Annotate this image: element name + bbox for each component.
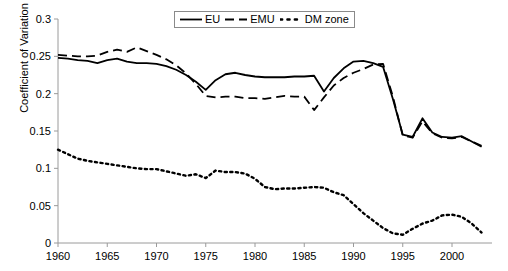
legend-label: EMU	[250, 14, 274, 25]
x-tick-label: 1960	[46, 251, 70, 262]
y-tick-label: 0.15	[0, 126, 51, 137]
x-tick-label: 1995	[391, 251, 415, 262]
legend-swatch-dotted-icon	[280, 15, 302, 24]
y-tick-label: 0.05	[0, 200, 51, 211]
chart-container: Coefficient of Variation 00.050.10.150.2…	[0, 0, 508, 271]
y-tick-label: 0.3	[0, 14, 51, 25]
legend-swatch-solid-icon	[180, 15, 202, 24]
legend-label: DM zone	[305, 14, 349, 25]
series-line-emu	[58, 47, 482, 146]
y-tick-label: 0	[0, 238, 51, 249]
x-tick-label: 2000	[440, 251, 464, 262]
legend-label: EU	[205, 14, 220, 25]
legend-item-dm-zone: DM zone	[280, 14, 349, 25]
x-tick-label: 1990	[341, 251, 365, 262]
chart-plot-area	[0, 0, 508, 271]
legend-item-emu: EMU	[225, 14, 274, 25]
x-tick-label: 1965	[95, 251, 119, 262]
chart-axes	[54, 19, 492, 247]
y-tick-label: 0.1	[0, 163, 51, 174]
y-tick-label: 0.2	[0, 88, 51, 99]
chart-legend: EUEMUDM zone	[174, 11, 355, 28]
legend-swatch-dashed-icon	[225, 15, 247, 24]
x-tick-label: 1975	[194, 251, 218, 262]
y-tick-label: 0.25	[0, 51, 51, 62]
legend-item-eu: EU	[180, 14, 220, 25]
series-line-eu	[58, 58, 482, 147]
x-tick-label: 1985	[292, 251, 316, 262]
chart-series-group	[58, 47, 482, 234]
x-tick-label: 1980	[243, 251, 267, 262]
x-tick-label: 1970	[144, 251, 168, 262]
series-line-dm-zone	[58, 150, 482, 235]
